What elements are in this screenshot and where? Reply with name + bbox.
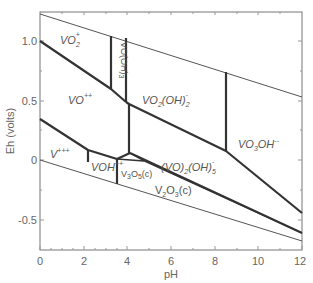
x-tick-label: 0 <box>37 255 43 267</box>
x-axis-title: pH <box>164 268 178 280</box>
region-label-v3o5: V3O5(c) <box>121 169 152 180</box>
region-label-vooh3: VO(OH)3 <box>118 42 129 79</box>
x-tick-label: 2 <box>81 255 87 267</box>
x-tick-label: 12 <box>294 255 306 267</box>
x-tick-label: 4 <box>124 255 130 267</box>
x-tick-label: 6 <box>168 255 174 267</box>
region-label-vo2oh5: (VO)2(OH)5- <box>161 158 216 175</box>
y-tick-label: 0.5 <box>22 95 37 107</box>
x-tick-label: 10 <box>252 255 264 267</box>
region-label-v3: V+++ <box>50 147 70 160</box>
x-tick-label: 8 <box>212 255 218 267</box>
y-axis-title: Eh (volts) <box>4 108 16 154</box>
y-tick-label: -0.5 <box>18 214 37 226</box>
phase-boundaries <box>40 36 302 233</box>
water-upper-line <box>40 14 302 97</box>
region-label-vo2oh2: VO2(OH)2- <box>142 91 190 108</box>
region-label-vo3oh: VO3OH-- <box>238 137 280 152</box>
region-label-vo: VO++ <box>68 92 92 106</box>
region-label-v2o3: V2O3(c) <box>155 184 192 198</box>
region-label-vo2: VO2+ <box>60 31 80 48</box>
y-tick-label: 0 <box>31 154 37 166</box>
y-tick-label: 1.0 <box>22 35 37 47</box>
region-label-voh: VOH++ <box>91 160 123 173</box>
pourbaix-diagram: 0 2 4 6 8 10 12 1.0 0.5 0 -0.5 pH Eh (vo… <box>0 0 313 283</box>
